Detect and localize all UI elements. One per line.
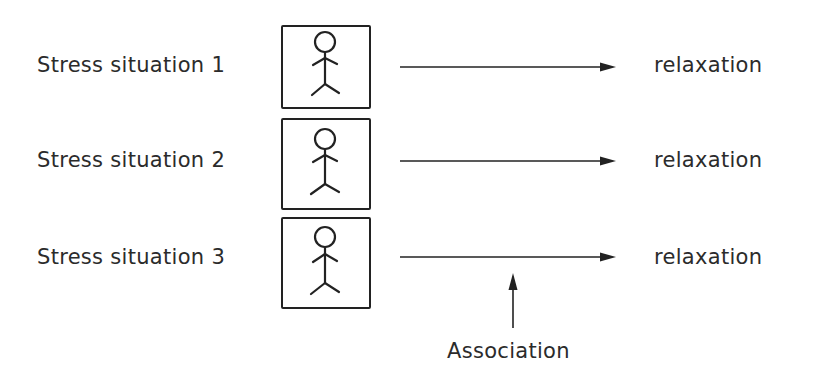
arrow-right-icon (400, 157, 616, 166)
arrows-layer (0, 0, 813, 376)
arrow-right-icon (400, 253, 616, 262)
arrow-right-icon (400, 63, 616, 72)
association-label: Association (447, 341, 570, 362)
arrow-up-icon (509, 273, 518, 328)
